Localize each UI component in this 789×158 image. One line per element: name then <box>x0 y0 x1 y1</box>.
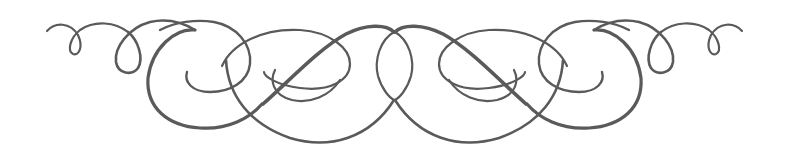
second-loop <box>594 20 673 72</box>
second-loop <box>116 20 195 72</box>
inner-spiral-left <box>160 21 250 92</box>
central-teardrop-left <box>377 32 394 100</box>
flourish-ornament <box>0 0 789 158</box>
inner-spiral-right <box>539 21 629 92</box>
outer-curl <box>661 23 742 54</box>
flourish-right-half <box>395 20 742 142</box>
flourish-left-half <box>47 20 394 142</box>
outer-curl <box>47 23 128 54</box>
central-teardrop-right <box>395 32 412 100</box>
